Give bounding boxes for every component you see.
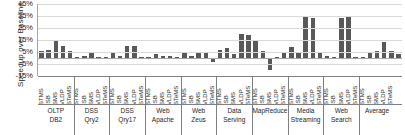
x-tick-label: STeMS [316, 86, 322, 105]
y-tick-label: -5% [20, 60, 33, 68]
group-divider [288, 105, 289, 135]
group-label: MediaStreaming [288, 105, 324, 135]
group-label-line2: DB2 [50, 116, 63, 125]
zero-baseline [38, 58, 402, 59]
bar [54, 41, 58, 58]
tick-group-divider [145, 77, 146, 105]
group-label: DataServing [216, 105, 252, 135]
gridline [38, 4, 402, 5]
y-axis-tick-labels: 45%35%25%15%5%-5%-15% [0, 4, 35, 76]
tick-group-divider [216, 77, 217, 105]
bar [253, 41, 257, 58]
x-tick-label: STMS [38, 88, 44, 105]
group-divider [359, 105, 360, 135]
bar [382, 42, 386, 58]
x-tick-label: STeMS [352, 86, 358, 105]
speedup-bar-chart: Speedup over Baseline 45%35%25%15%5%-5%-… [0, 0, 405, 135]
tick-group-divider [323, 77, 324, 105]
group-label-line1: Web [335, 107, 348, 116]
group-label: WebApache [145, 105, 181, 135]
x-axis-tick-labels: STMSISBSMSVLDPSTeMSSTMSISBSMSVLDPSTeMSST… [38, 77, 402, 105]
group-label-line1: Web [192, 107, 205, 116]
bar [218, 50, 222, 58]
group-divider [252, 105, 253, 135]
y-tick-label: -15% [15, 72, 33, 80]
bar [46, 50, 50, 58]
bar [246, 35, 250, 58]
group-label-line2: Zeus [191, 116, 205, 125]
group-label: MapReduce [252, 105, 288, 135]
x-tick-label: VLDP [131, 89, 137, 105]
x-tick-label: STeMS [102, 86, 108, 105]
x-tick-label: STeMS [280, 86, 286, 105]
group-label-line2: Qry2 [84, 116, 98, 125]
group-label: Average [359, 105, 395, 135]
x-tick-label: VLDP [238, 89, 244, 105]
x-tick-label: VLDP [166, 89, 172, 105]
group-label: DSSQry2 [74, 105, 110, 135]
tick-group-divider [359, 77, 360, 105]
plot-area [38, 4, 402, 76]
x-tick-label: STeMS [387, 86, 393, 105]
group-label-line2: Qry17 [118, 116, 136, 125]
group-label-line1: OLTP [48, 107, 65, 116]
group-label-line1: DSS [85, 107, 98, 116]
tick-group-divider [74, 77, 75, 105]
x-tick-label: STeMS [138, 86, 144, 105]
group-divider [74, 105, 75, 135]
group-divider [145, 105, 146, 135]
gridline [38, 64, 402, 65]
group-divider [109, 105, 110, 135]
group-label-line1: DSS [121, 107, 134, 116]
tick-group-divider [288, 77, 289, 105]
y-tick-label: 15% [18, 36, 33, 44]
y-tick-label: 35% [18, 12, 33, 20]
group-label-line1: Web [156, 107, 169, 116]
group-label-line1: Data [227, 107, 241, 116]
tick-group-divider [252, 77, 253, 105]
gridline [38, 16, 402, 17]
group-divider [323, 105, 324, 135]
group-label: WebSearch [323, 105, 359, 135]
y-tick-label: 5% [22, 48, 33, 56]
group-divider [181, 105, 182, 135]
group-label: OLTPDB2 [38, 105, 74, 135]
x-tick-label: STeMS [245, 86, 251, 105]
group-label-line2: Apache [152, 116, 174, 125]
x-tick-label: VLDP [380, 89, 386, 105]
group-divider [216, 105, 217, 135]
group-label-line2: Search [331, 116, 352, 125]
x-tick-label: STeMS [209, 86, 215, 105]
x-tick-label: VLDP [345, 89, 351, 105]
group-label: WebZeus [181, 105, 217, 135]
tick-group-divider [109, 77, 110, 105]
group-label-line2: Streaming [291, 116, 321, 125]
x-tick-label: VLDP [202, 89, 208, 105]
x-axis-group-labels: OLTPDB2DSSQry2DSSQry17WebApacheWebZeusDa… [38, 105, 402, 135]
bar [225, 48, 229, 58]
x-tick-label: VLDP [59, 89, 65, 105]
x-tick-label: VLDP [95, 89, 101, 105]
tick-group-divider [181, 77, 182, 105]
y-tick-label: 45% [18, 0, 33, 8]
gridline [38, 28, 402, 29]
group-label-line2: Serving [223, 116, 245, 125]
gridline [38, 52, 402, 53]
bar [239, 34, 243, 58]
y-tick-label: 25% [18, 24, 33, 32]
x-tick-label: STeMS [173, 86, 179, 105]
group-label-line1: MapReduce [252, 107, 287, 116]
gridline [38, 40, 402, 41]
x-tick-label: VLDP [309, 89, 315, 105]
group-label-line1: Average [365, 107, 389, 116]
group-label: DSSQry17 [109, 105, 145, 135]
x-tick-label: VLDP [273, 89, 279, 105]
x-tick-label: STeMS [66, 86, 72, 105]
group-label-line1: Media [297, 107, 315, 116]
